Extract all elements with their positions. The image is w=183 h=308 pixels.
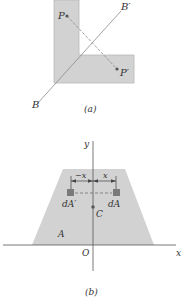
caption-a: (a)	[84, 104, 97, 114]
label-y-axis: y	[83, 139, 90, 149]
figure-b: −x x dA′ dA C A O x y (b)	[3, 139, 181, 297]
figure-a: P P′ B B′ (a)	[31, 0, 134, 114]
label-b: B	[31, 99, 39, 110]
label-area: A	[57, 229, 65, 239]
label-p-prime: P′	[119, 67, 130, 78]
label-x-axis: x	[176, 248, 181, 258]
label-da: dA	[108, 199, 121, 209]
element-da-prime	[67, 189, 74, 196]
centroid-point	[91, 205, 94, 208]
label-pos-x: x	[103, 171, 108, 180]
caption-b: (b)	[85, 287, 98, 297]
figure-canvas: P P′ B B′ (a) −x x dA′ dA C A O x y (b)	[0, 0, 183, 308]
label-da-prime: dA′	[62, 199, 76, 209]
label-neg-x: −x	[75, 171, 87, 180]
point-p	[65, 14, 68, 17]
label-b-prime: B′	[120, 1, 131, 12]
label-p: P	[57, 10, 65, 21]
label-origin: O	[82, 248, 90, 258]
element-da	[113, 189, 120, 196]
label-centroid: C	[96, 209, 103, 219]
point-p-prime	[115, 67, 118, 70]
